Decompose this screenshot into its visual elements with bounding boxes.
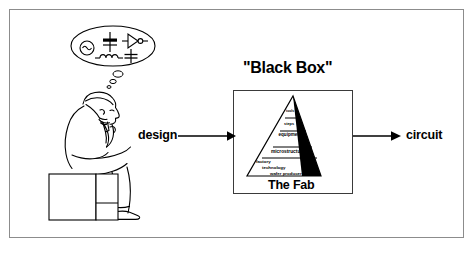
pyramid-label-factory: factory	[256, 160, 271, 164]
label-black-box-title: "Black Box"	[243, 60, 332, 76]
pyramid-label-steps: steps	[284, 122, 294, 126]
thought-trail-bubble-3	[107, 86, 111, 89]
ear	[100, 109, 104, 114]
label-circuit: circuit	[406, 129, 442, 142]
pyramid-label-tools: tools	[286, 110, 294, 113]
hair-fringe	[86, 98, 114, 105]
pyramid-label-wafer-producer: wafer producer	[270, 172, 302, 176]
pyramid-label-technology: technology	[262, 166, 285, 170]
seat-cube	[49, 174, 118, 220]
collar-left	[100, 118, 108, 119]
line-art-layer	[0, 0, 473, 253]
pyramid-label-microstructures: microstructures	[271, 150, 308, 155]
pyramid-label-equipment: equipment	[279, 133, 302, 138]
shoulder	[86, 105, 100, 119]
arrow-design-to-box	[178, 131, 236, 141]
eye	[110, 110, 114, 111]
back	[65, 106, 84, 169]
shirt-front	[106, 132, 107, 143]
figure-canvas: design circuit "Black Box" The Fab tools…	[0, 0, 473, 253]
label-design: design	[138, 129, 177, 142]
arrow-box-to-circuit	[353, 131, 401, 141]
thought-trail-bubble-1	[113, 71, 123, 77]
thought-trail-bubble-2	[110, 79, 116, 83]
label-the-fab: The Fab	[268, 179, 315, 192]
thought-bubble	[71, 26, 155, 88]
